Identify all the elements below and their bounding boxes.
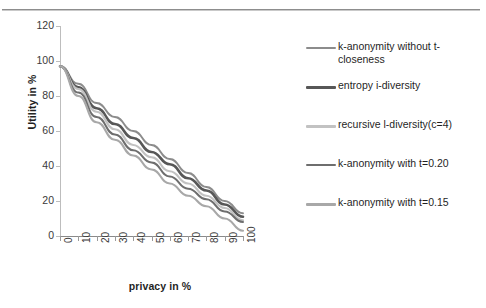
legend-line-icon <box>306 159 336 171</box>
legend-item-label: recursive l-diversity(c=4) <box>336 118 452 131</box>
legend-item-label: k-anonymity without t-closeness <box>336 40 480 65</box>
legend-line-icon <box>306 120 336 132</box>
legend-line-icon <box>306 42 336 54</box>
chart-line <box>60 66 243 213</box>
legend-item[interactable]: recursive l-diversity(c=4) <box>306 118 484 144</box>
legend-item[interactable]: k-anonymity with t=0.15 <box>306 196 484 222</box>
chart-page: 020406080100120 0102030405060708090100 U… <box>0 0 486 308</box>
legend-item-label: k-anonymity with t=0.15 <box>336 196 449 209</box>
legend-line-icon <box>306 81 336 93</box>
legend-item-label: k-anonymity with t=0.20 <box>336 157 449 170</box>
chart-lines <box>0 0 260 308</box>
legend-item[interactable]: k-anonymity with t=0.20 <box>306 157 484 183</box>
legend-item-label: entropy i-diversity <box>336 79 420 92</box>
legend-item[interactable]: entropy i-diversity <box>306 79 484 105</box>
legend-line-icon <box>306 198 336 210</box>
plot-area: 020406080100120 0102030405060708090100 U… <box>0 0 260 308</box>
chart-legend: k-anonymity without t-closenessentropy i… <box>306 40 484 235</box>
legend-item[interactable]: k-anonymity without t-closeness <box>306 40 484 66</box>
